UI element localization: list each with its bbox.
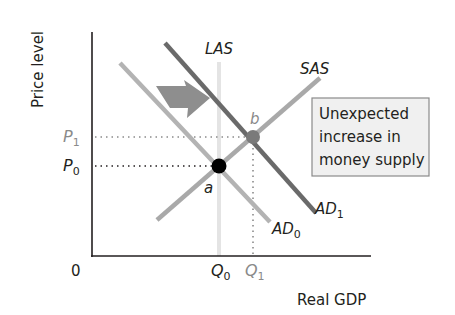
q0-label: Q0 bbox=[211, 261, 231, 283]
x-axis-label: Real GDP bbox=[297, 291, 366, 309]
p1-label: P1 bbox=[63, 127, 80, 149]
las-label: LAS bbox=[205, 40, 234, 58]
point-b-marker bbox=[246, 130, 260, 144]
point-a-label: a bbox=[204, 179, 213, 197]
annotation-box: Unexpected increase in money supply bbox=[312, 98, 429, 176]
ad0-label: AD0 bbox=[271, 220, 301, 241]
y-axis-label: Price level bbox=[29, 31, 47, 108]
ad1-label: AD1 bbox=[314, 200, 344, 221]
p0-label: P0 bbox=[63, 156, 80, 178]
origin-label: 0 bbox=[71, 262, 81, 280]
q1-label: Q1 bbox=[245, 261, 265, 283]
point-b-label: b bbox=[250, 110, 260, 128]
annotation-line-1: Unexpected bbox=[319, 105, 409, 123]
annotation-line-3: money supply bbox=[319, 151, 425, 169]
sas-label: SAS bbox=[300, 60, 330, 78]
ad-as-diagram: Price level Real GDP 0 P1 P0 Q0 Q1 LAS S… bbox=[0, 0, 455, 315]
point-a-marker bbox=[212, 159, 227, 174]
annotation-line-2: increase in bbox=[319, 128, 401, 146]
